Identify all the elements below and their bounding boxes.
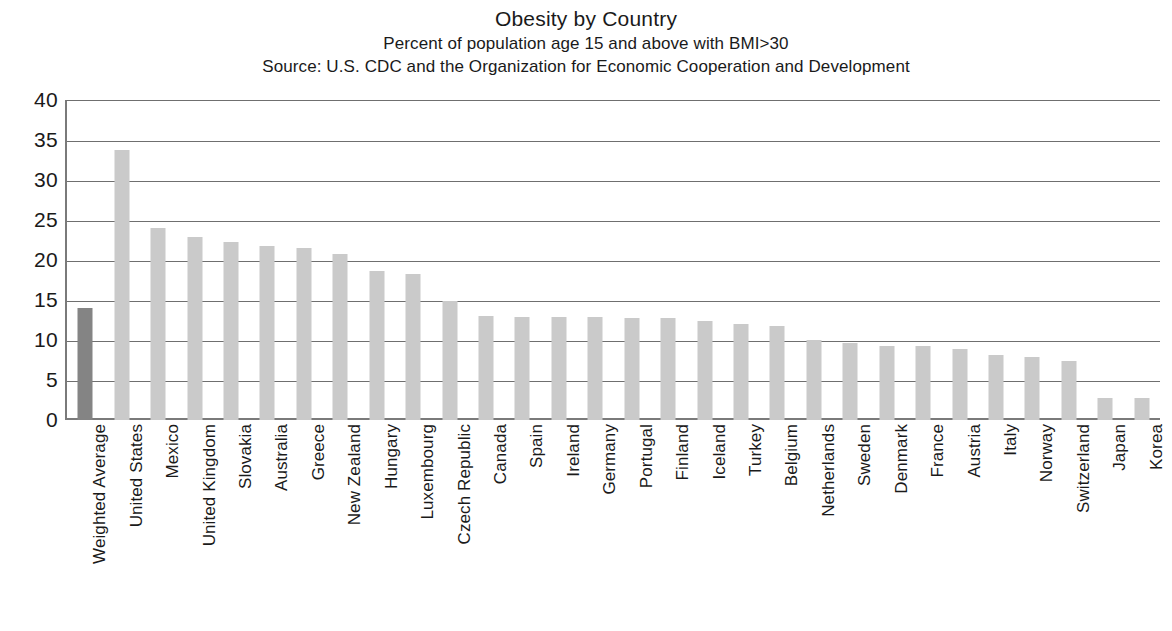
x-axis-tick-label: United Kingdom [201,424,218,614]
x-axis-tick-label: Mexico [164,424,181,614]
x-axis-tick-label: Greece [310,424,327,614]
bar-slot[interactable] [577,100,613,420]
x-axis-tick-label: Iceland [711,424,728,614]
bar[interactable] [697,321,712,420]
bar[interactable] [551,317,566,420]
x-axis-tick-label: Canada [492,424,509,614]
y-axis-tick-label: 10 [0,329,58,350]
x-axis-tick-label: Czech Republic [456,424,473,614]
bar[interactable] [1134,398,1149,420]
y-axis-tick-label: 15 [0,289,58,310]
bar-slot[interactable] [614,100,650,420]
bar[interactable] [843,343,858,420]
bar-slot[interactable] [1014,100,1050,420]
x-axis-tick-label: Austria [966,424,983,614]
bar-slot[interactable] [176,100,212,420]
x-axis-tick-label: Luxembourg [419,424,436,614]
x-axis-tick-label: Italy [1002,424,1019,614]
bar-slot[interactable] [832,100,868,420]
bar[interactable] [151,228,166,420]
y-axis-tick-label: 5 [0,369,58,390]
bar-slot[interactable] [941,100,977,420]
x-axis-tick-label: Netherlands [820,424,837,614]
x-axis-labels: Weighted AverageUnited StatesMexicoUnite… [67,424,1160,614]
x-axis-tick-label: Denmark [893,424,910,614]
bar-slot[interactable] [468,100,504,420]
bar-slot[interactable] [905,100,941,420]
bar-slot[interactable] [395,100,431,420]
bar[interactable] [333,254,348,420]
x-axis-tick-label: Germany [601,424,618,614]
x-axis-tick-label: Korea [1148,424,1165,614]
x-axis-tick-label: Australia [273,424,290,614]
bar[interactable] [187,237,202,420]
x-axis-tick-label: Portugal [638,424,655,614]
bar[interactable] [1061,361,1076,420]
bar-slot[interactable] [869,100,905,420]
bar[interactable] [260,246,275,420]
bar-slot[interactable] [504,100,540,420]
x-axis-tick-label: France [929,424,946,614]
bar-slot[interactable] [541,100,577,420]
chart-title-block: Obesity by Country Percent of population… [0,6,1172,78]
chart-source-note: Source: U.S. CDC and the Organization fo… [0,55,1172,78]
bar-slot[interactable] [796,100,832,420]
bar-slot[interactable] [723,100,759,420]
bar[interactable] [624,318,639,420]
bar-slot[interactable] [686,100,722,420]
bar-slot[interactable] [358,100,394,420]
page-title: Obesity by Country [0,6,1172,32]
bar-slot[interactable] [67,100,103,420]
x-axis-tick-label: Spain [528,424,545,614]
bar[interactable] [588,317,603,420]
y-axis-tick-label: 0 [0,409,58,430]
bar[interactable] [806,340,821,420]
bar[interactable] [78,308,93,420]
bars-layer [67,100,1160,420]
bar-slot[interactable] [759,100,795,420]
bar-slot[interactable] [322,100,358,420]
bar-slot[interactable] [286,100,322,420]
x-axis-tick-label: Switzerland [1075,424,1092,614]
bar[interactable] [1025,357,1040,420]
x-axis-tick-label: Slovakia [237,424,254,614]
bar-slot[interactable] [1087,100,1123,420]
bar-slot[interactable] [978,100,1014,420]
bar-slot[interactable] [431,100,467,420]
x-axis-tick-label: Turkey [747,424,764,614]
y-axis-tick-label: 40 [0,89,58,110]
obesity-bar-chart: Obesity by Country Percent of population… [0,0,1172,631]
x-axis-tick-label: Belgium [783,424,800,614]
bar[interactable] [952,349,967,420]
bar[interactable] [661,318,676,420]
bar[interactable] [1098,398,1113,420]
x-axis-tick-label: New Zealand [346,424,363,614]
bar[interactable] [515,317,530,420]
chart-subtitle: Percent of population age 15 and above w… [0,32,1172,55]
bar-slot[interactable] [249,100,285,420]
bar[interactable] [916,346,931,420]
y-axis-tick-label: 25 [0,209,58,230]
bar-slot[interactable] [103,100,139,420]
bar[interactable] [369,271,384,420]
bar[interactable] [296,248,311,420]
bar-slot[interactable] [1124,100,1160,420]
y-axis-tick-label: 35 [0,129,58,150]
x-axis-tick-label: Sweden [856,424,873,614]
bar-slot[interactable] [213,100,249,420]
bar[interactable] [223,242,238,420]
x-axis-tick-label: Hungary [383,424,400,614]
bar[interactable] [989,355,1004,420]
bar[interactable] [442,301,457,420]
bar[interactable] [114,150,129,420]
bar-slot[interactable] [140,100,176,420]
y-axis-tick-label: 30 [0,169,58,190]
bar[interactable] [879,346,894,420]
bar[interactable] [734,324,749,420]
bar[interactable] [770,326,785,420]
bar[interactable] [478,316,493,420]
x-axis-tick-label: Ireland [565,424,582,614]
bar[interactable] [406,274,421,420]
bar-slot[interactable] [1051,100,1087,420]
bar-slot[interactable] [650,100,686,420]
